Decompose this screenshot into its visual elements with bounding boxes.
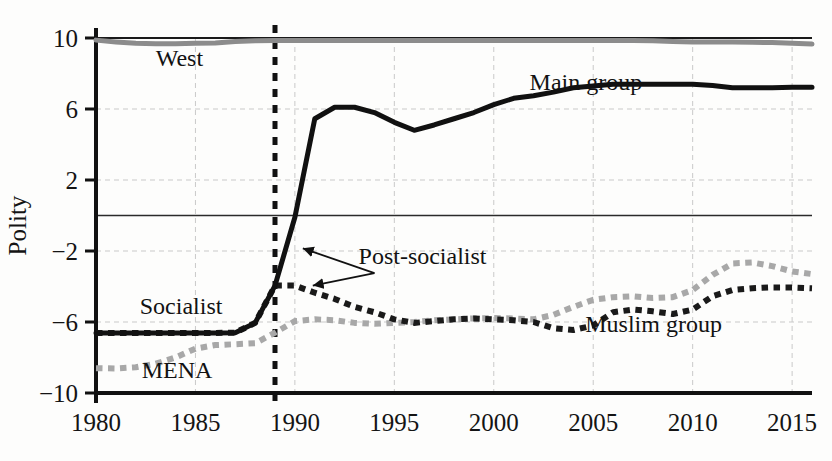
- y-tick-label: 10: [53, 25, 78, 52]
- polity-line-chart-figure: 1062−2−6−1019801985199019952000200520102…: [0, 0, 832, 461]
- x-tick-label: 1995: [369, 409, 419, 436]
- annotation-mena: MENA: [142, 357, 213, 383]
- x-tick-label: 2005: [568, 409, 618, 436]
- annotation-arrow-2: [313, 273, 375, 285]
- annotation-west: West: [156, 45, 204, 71]
- annotation-post-socialist: Post-socialist: [359, 243, 487, 269]
- y-axis-title: Polity: [4, 195, 31, 255]
- x-tick-label: 1990: [270, 409, 320, 436]
- y-tick-label: −10: [39, 380, 78, 407]
- y-tick-label: −2: [51, 238, 78, 265]
- series-line-west: [96, 40, 812, 44]
- x-tick-label: 2010: [668, 409, 718, 436]
- annotation-main-group: Main group: [530, 69, 643, 95]
- x-tick-label: 2015: [767, 409, 817, 436]
- y-tick-label: 6: [66, 96, 79, 123]
- annotation-muslim-group: Muslim group: [585, 311, 722, 337]
- y-tick-label: −6: [51, 309, 78, 336]
- x-tick-label: 1985: [170, 409, 220, 436]
- x-tick-label: 2000: [469, 409, 519, 436]
- y-axis-title-text: Polity: [4, 195, 31, 255]
- annotation-socialist: Socialist: [140, 293, 223, 319]
- y-tick-label: 2: [66, 167, 79, 194]
- chart-canvas: 1062−2−6−1019801985199019952000200520102…: [0, 0, 832, 461]
- x-tick-label: 1980: [71, 409, 121, 436]
